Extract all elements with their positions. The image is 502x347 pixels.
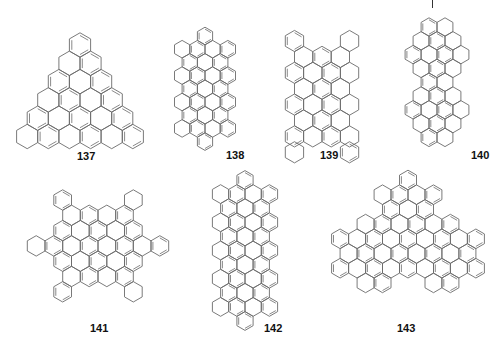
ring <box>59 51 80 75</box>
double-bond <box>322 93 329 97</box>
double-bond <box>322 80 329 84</box>
ring <box>285 30 303 51</box>
ring <box>322 94 340 115</box>
molecule-143 <box>332 170 485 293</box>
double-bond <box>59 72 67 77</box>
ring <box>340 126 358 147</box>
ring <box>69 69 90 93</box>
ring <box>197 133 212 151</box>
ring <box>357 273 374 293</box>
ring <box>285 142 303 163</box>
double-bond <box>125 207 132 211</box>
double-bond <box>295 33 302 37</box>
double-bond <box>38 123 46 128</box>
ring <box>27 236 45 256</box>
double-bond <box>295 109 302 113</box>
ring <box>80 124 101 148</box>
ring <box>285 126 303 147</box>
ring <box>80 51 101 75</box>
ring <box>374 273 391 293</box>
double-bond <box>48 141 56 146</box>
double-bond <box>445 58 451 62</box>
double-bond <box>89 250 96 254</box>
ring <box>38 88 59 112</box>
molecule-138 <box>175 27 236 150</box>
ring <box>48 69 69 93</box>
double-bond <box>63 204 70 208</box>
ring <box>91 106 112 130</box>
double-bond <box>63 296 70 300</box>
ring <box>421 128 437 146</box>
ring <box>212 298 228 317</box>
double-bond <box>445 113 451 117</box>
double-bond <box>331 128 338 132</box>
double-bond <box>80 123 88 128</box>
double-bond <box>295 77 302 81</box>
label-137: 137 <box>77 151 95 162</box>
double-bond <box>80 36 88 41</box>
ring <box>54 282 72 302</box>
ring <box>340 30 358 51</box>
double-bond <box>101 86 109 91</box>
ring <box>220 120 235 138</box>
double-bond <box>89 219 96 223</box>
double-bond <box>445 47 451 51</box>
double-bond <box>112 105 120 110</box>
ring <box>27 106 48 130</box>
ring <box>304 126 322 147</box>
ring <box>437 128 453 146</box>
label-139: 139 <box>320 150 338 161</box>
double-bond <box>63 192 70 196</box>
double-bond <box>331 96 338 100</box>
double-bond <box>133 265 140 269</box>
double-bond <box>98 253 105 257</box>
double-bond <box>133 127 141 132</box>
ring <box>285 94 303 115</box>
double-bond <box>322 125 329 129</box>
label-142: 142 <box>264 323 282 334</box>
ring <box>295 78 313 99</box>
double-bond <box>91 54 99 59</box>
double-bond <box>89 207 96 211</box>
double-bond <box>89 281 96 285</box>
double-bond <box>125 238 132 242</box>
double-bond <box>63 223 70 227</box>
double-bond <box>91 68 99 73</box>
double-bond <box>125 269 132 273</box>
ring <box>101 88 122 112</box>
double-bond <box>54 238 61 242</box>
ring <box>48 106 69 130</box>
double-bond <box>133 141 141 146</box>
double-bond <box>133 253 140 257</box>
ring <box>69 33 90 57</box>
ring <box>313 110 331 131</box>
double-bond <box>69 105 77 110</box>
ring <box>313 78 331 99</box>
double-bond <box>295 96 302 100</box>
ring <box>331 110 349 131</box>
ring <box>80 88 101 112</box>
double-bond <box>63 253 70 257</box>
molecule-137 <box>17 33 144 149</box>
double-bond <box>133 235 140 239</box>
double-bond <box>54 250 61 254</box>
ring <box>425 273 442 293</box>
double-bond <box>59 86 67 91</box>
double-bond <box>38 109 46 114</box>
ring <box>442 273 459 293</box>
ring <box>151 236 169 256</box>
ring <box>331 78 349 99</box>
double-bond <box>122 109 130 114</box>
double-bond <box>63 284 70 288</box>
ring <box>340 94 358 115</box>
ring <box>59 124 80 148</box>
ring <box>332 258 349 278</box>
double-bond <box>48 127 56 132</box>
double-bond <box>350 156 357 160</box>
double-bond <box>331 141 338 145</box>
double-bond <box>160 250 167 254</box>
double-bond <box>322 61 329 65</box>
double-bond <box>125 219 132 223</box>
ring <box>261 298 277 317</box>
ring <box>340 142 358 163</box>
